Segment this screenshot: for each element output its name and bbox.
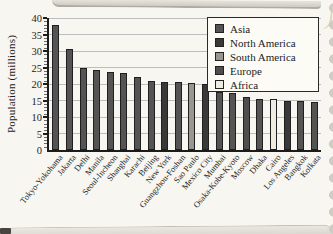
y-minor-tick: [44, 120, 47, 121]
page-edge-top: [52, 0, 321, 9]
gridline: [49, 133, 321, 134]
page-corner-tab: [0, 228, 11, 234]
gridline: [49, 100, 321, 101]
bar: [80, 68, 87, 151]
y-major-tick: [43, 67, 47, 69]
bar: [311, 102, 318, 150]
y-minor-tick: [44, 147, 47, 148]
y-tick-label: 30: [0, 46, 42, 57]
legend-swatch-asia: [215, 24, 224, 33]
y-minor-tick: [44, 143, 47, 144]
y-tick-label: 15: [0, 96, 42, 107]
y-tick-label: 5: [0, 129, 42, 140]
y-major-tick: [43, 17, 47, 19]
y-minor-tick: [44, 54, 47, 55]
bar: [256, 99, 263, 150]
scanned-book-page: Population (millions) 0510152025303540 T…: [0, 0, 333, 234]
bar: [52, 25, 59, 150]
bar: [202, 84, 209, 150]
y-minor-tick: [44, 41, 47, 42]
y-major-tick: [43, 50, 47, 52]
y-minor-tick: [44, 25, 47, 26]
y-minor-tick: [44, 127, 47, 128]
bar: [175, 82, 182, 150]
bar: [270, 99, 277, 150]
bar: [93, 70, 100, 150]
y-tick-label: 0: [0, 145, 42, 156]
y-minor-tick: [44, 44, 47, 45]
legend-label: South America: [230, 51, 296, 63]
bar: [188, 83, 195, 150]
bar: [120, 73, 127, 150]
legend-item: South America: [215, 50, 318, 63]
y-minor-tick: [44, 107, 47, 108]
y-tick-label: 10: [0, 112, 42, 123]
legend-label: North America: [230, 37, 296, 49]
y-minor-tick: [44, 71, 47, 72]
y-minor-tick: [44, 87, 47, 88]
bar: [216, 92, 223, 150]
bar: [297, 101, 304, 150]
y-tick-label: 40: [0, 13, 42, 24]
bar: [107, 72, 114, 150]
y-major-tick: [43, 100, 47, 102]
bar: [134, 77, 141, 150]
y-tick-label: 20: [0, 79, 42, 90]
y-minor-tick: [44, 94, 47, 95]
gridline: [49, 117, 321, 118]
legend-swatch-europe: [215, 66, 224, 75]
y-tick-label: 25: [0, 63, 42, 74]
y-major-tick: [43, 34, 47, 36]
y-minor-tick: [44, 124, 47, 125]
bar: [148, 81, 155, 150]
y-minor-tick: [44, 91, 47, 92]
y-minor-tick: [44, 28, 47, 29]
y-minor-tick: [44, 81, 47, 82]
y-minor-tick: [44, 21, 47, 22]
legend-item: North America: [215, 36, 318, 49]
y-minor-tick: [44, 77, 47, 78]
y-minor-tick: [44, 110, 47, 111]
y-minor-tick: [44, 97, 47, 98]
y-minor-tick: [44, 58, 47, 59]
page-edge-right: [323, 0, 333, 234]
y-tick-label: 35: [0, 30, 42, 41]
legend-swatch-south-america: [215, 52, 224, 61]
x-tick-label: Tokyo-Yokohama: [19, 153, 65, 205]
legend-item: Asia: [215, 22, 318, 35]
legend-label: Europe: [230, 65, 262, 77]
bar: [161, 82, 168, 150]
bar: [229, 93, 236, 150]
y-minor-tick: [44, 74, 47, 75]
y-minor-tick: [44, 38, 47, 39]
y-minor-tick: [44, 137, 47, 138]
legend-item: Europe: [215, 64, 318, 77]
y-major-tick: [43, 116, 47, 118]
y-minor-tick: [44, 104, 47, 105]
y-minor-tick: [44, 140, 47, 141]
legend: AsiaNorth AmericaSouth AmericaEuropeAfri…: [207, 17, 319, 92]
y-minor-tick: [44, 130, 47, 131]
legend-label: Africa: [230, 79, 258, 91]
bar: [284, 101, 291, 151]
bar: [66, 49, 73, 150]
legend-label: Asia: [230, 23, 250, 35]
page-edge-bottom: [6, 225, 333, 234]
legend-swatch-africa: [215, 80, 224, 89]
y-minor-tick: [44, 31, 47, 32]
y-major-tick: [43, 133, 47, 135]
y-minor-tick: [44, 114, 47, 115]
legend-swatch-north-america: [215, 38, 224, 47]
bar: [243, 97, 250, 150]
y-major-tick: [43, 83, 47, 85]
y-minor-tick: [44, 48, 47, 49]
legend-item: Africa: [215, 78, 318, 91]
y-minor-tick: [44, 61, 47, 62]
y-minor-tick: [44, 64, 47, 65]
